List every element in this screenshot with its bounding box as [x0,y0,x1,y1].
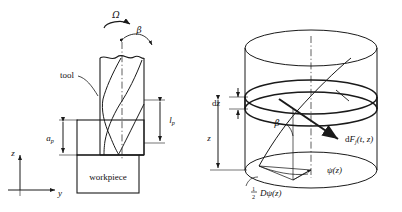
svg-text:1: 1 [252,185,255,192]
workpiece-label: workpiece [89,172,126,182]
spindle-speed-label: Ω [111,10,120,20]
angular-position-label: ψ(z) [327,165,342,175]
axis-z-label: z [10,148,15,158]
svg-text:2: 2 [252,193,255,200]
helix-angle-label-left: β [135,25,141,35]
lag-frac-numerator: 1 [252,185,255,192]
element-thickness-label: dz [212,98,221,108]
differential-force-label: dFj(t, z) [345,134,373,145]
figure-root: Ω β workpiece tool [0,0,402,212]
helix-angle-label-right: β [273,118,279,128]
axis-y-label: y [57,188,62,198]
milling-diagram-svg: Ω β workpiece tool [0,0,402,212]
lag-arc-expression: Dψ(z) [259,188,282,198]
tool-label: tool [60,70,75,80]
axial-position-label: z [206,133,211,143]
lag-frac-denominator: 2 [252,193,255,200]
